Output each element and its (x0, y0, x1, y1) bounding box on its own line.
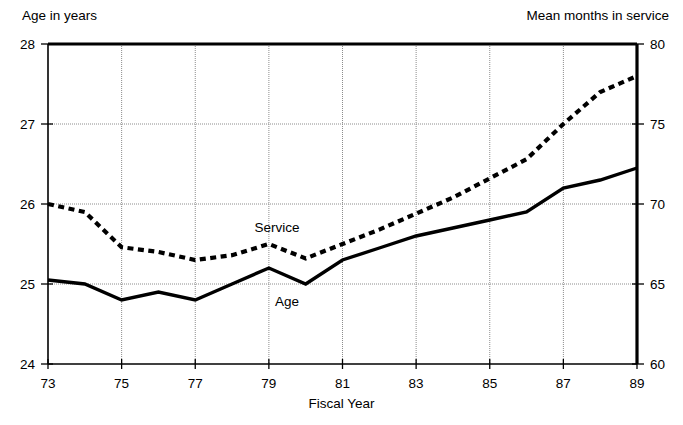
x-tick-label: 79 (261, 376, 276, 391)
right-tick-label: 75 (650, 117, 665, 132)
left-tick-label: 25 (20, 277, 35, 292)
series-label-age: Age (275, 294, 299, 309)
right-tick-label: 80 (650, 37, 665, 52)
right-tick-label: 60 (650, 357, 665, 372)
left-tick-label: 28 (20, 37, 35, 52)
x-tick-label: 81 (335, 376, 350, 391)
chart-svg: 2425262728 6065707580 737577798183858789… (0, 0, 683, 425)
right-tick-label: 70 (650, 197, 665, 212)
x-tick-label: 73 (40, 376, 55, 391)
x-tick-labels: 737577798183858789 (40, 376, 644, 391)
left-tick-label: 26 (20, 197, 35, 212)
left-tick-label: 24 (20, 357, 36, 372)
x-axis-title: Fiscal Year (0, 396, 683, 411)
right-tick-label: 65 (650, 277, 665, 292)
x-tick-label: 85 (482, 376, 497, 391)
chart-figure: Age in years Mean months in service 2425… (0, 0, 683, 425)
plot-area: 2425262728 6065707580 737577798183858789… (0, 0, 683, 425)
x-tick-label: 87 (556, 376, 571, 391)
x-tick-label: 89 (629, 376, 644, 391)
left-tick-label: 27 (20, 117, 35, 132)
x-tick-label: 83 (409, 376, 424, 391)
gridlines (48, 44, 637, 364)
x-tick-label: 75 (114, 376, 129, 391)
right-tick-labels: 6065707580 (650, 37, 665, 372)
series-label-service: Service (254, 220, 299, 235)
x-tick-label: 77 (188, 376, 203, 391)
left-tick-labels: 2425262728 (20, 37, 36, 372)
